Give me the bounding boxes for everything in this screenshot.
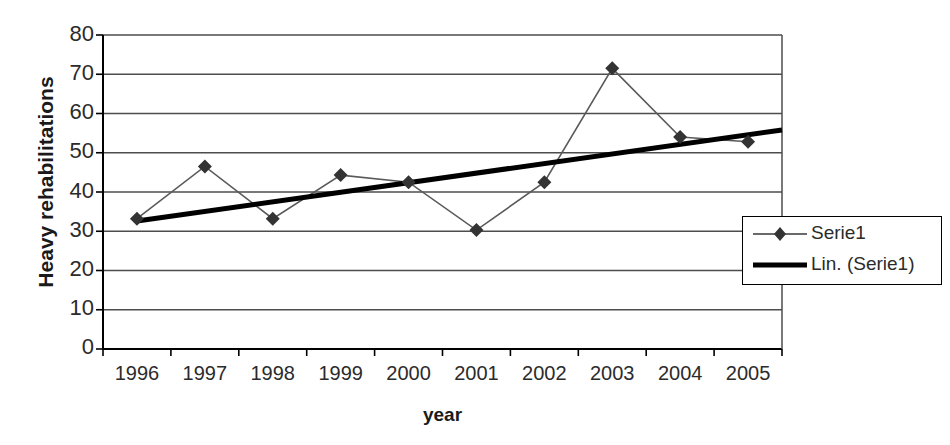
x-tick-label: 1996 [101, 362, 173, 385]
chart-legend[interactable]: Serie1 Lin. (Serie1) [742, 216, 942, 285]
legend-label: Lin. (Serie1) [811, 253, 915, 275]
x-tick-label: 1997 [169, 362, 241, 385]
x-tick-label: 1999 [305, 362, 377, 385]
x-tick-label: 2002 [508, 362, 580, 385]
x-tick-label: 2000 [373, 362, 445, 385]
legend-thick-line-icon [751, 251, 809, 279]
legend-label: Serie1 [811, 222, 866, 244]
legend-item-serie1[interactable]: Serie1 [743, 220, 943, 250]
y-axis-ticks [96, 35, 103, 349]
x-tick-label: 2001 [440, 362, 512, 385]
chart-container: Heavy rehabilitations 80 70 60 50 40 30 … [0, 0, 950, 445]
x-tick-label: 2005 [712, 362, 784, 385]
x-tick-label: 2004 [644, 362, 716, 385]
trendline-lin-serie1 [137, 130, 782, 221]
x-tick-label: 1998 [237, 362, 309, 385]
x-axis-title: year [103, 404, 782, 426]
x-axis-ticks [103, 349, 782, 356]
x-tick-label: 2003 [576, 362, 648, 385]
legend-line-marker-icon [751, 220, 809, 248]
legend-item-lin-serie1[interactable]: Lin. (Serie1) [743, 251, 943, 281]
